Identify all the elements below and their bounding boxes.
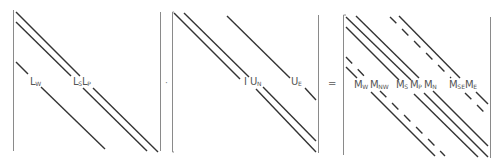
label-m-s: MS	[396, 80, 408, 91]
label-m-n: MN	[424, 80, 437, 91]
label-i: I	[244, 77, 247, 87]
diagonal-m-se	[390, 17, 488, 116]
diagonal-u-e	[227, 16, 316, 100]
label-l-w: LW	[30, 77, 41, 88]
equals-operator: =	[328, 79, 336, 88]
diagonal-m-nw	[346, 57, 445, 156]
label-l-p: LP	[82, 77, 91, 88]
label-l-s: LS	[73, 77, 82, 88]
label-u-n: UN	[250, 77, 262, 88]
label-m-p: MP	[410, 80, 422, 91]
lu-factorization-diagram: · = LW LS LP I UN UE MW MNW MS MP MN MSE…	[0, 0, 502, 165]
diagonal-m-s	[346, 27, 478, 157]
label-m-nw: MNW	[370, 80, 389, 91]
label-m-se: MSE	[449, 80, 465, 91]
multiply-operator: ·	[165, 79, 168, 88]
label-u-e: UE	[291, 77, 302, 88]
label-m-w: MW	[354, 80, 368, 91]
label-m-e: ME	[465, 80, 477, 91]
